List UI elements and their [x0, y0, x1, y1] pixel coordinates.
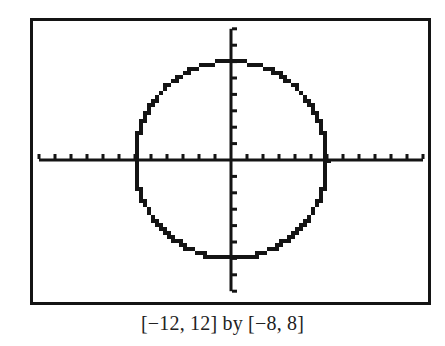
x-tick: [246, 154, 249, 159]
x-tick: [358, 154, 361, 159]
x-tick: [86, 154, 89, 159]
y-tick: [232, 241, 237, 244]
x-tick: [102, 154, 105, 159]
y-tick: [232, 109, 237, 112]
x-tick: [422, 154, 425, 159]
x-tick: [214, 154, 217, 159]
y-tick: [232, 224, 237, 227]
x-tick: [182, 154, 185, 159]
y-tick: [232, 44, 237, 47]
y-tick: [232, 93, 237, 96]
y-tick: [232, 290, 237, 293]
x-tick: [374, 154, 377, 159]
x-tick: [150, 154, 153, 159]
window-caption: [−12, 12] by [−8, 8]: [0, 312, 445, 335]
y-tick: [232, 126, 237, 129]
x-tick: [118, 154, 121, 159]
x-tick: [278, 154, 281, 159]
y-tick: [232, 77, 237, 80]
x-tick: [198, 154, 201, 159]
x-tick: [262, 154, 265, 159]
y-tick: [232, 142, 237, 145]
x-tick: [390, 154, 393, 159]
x-tick: [166, 154, 169, 159]
x-tick: [294, 154, 297, 159]
y-tick: [232, 273, 237, 276]
x-tick: [38, 154, 41, 159]
y-tick: [232, 191, 237, 194]
axes: [38, 27, 425, 292]
y-tick: [232, 27, 237, 30]
plot-area: [33, 21, 428, 302]
x-tick: [54, 154, 57, 159]
y-tick: [232, 208, 237, 211]
y-axis: [230, 29, 233, 291]
x-tick: [70, 154, 73, 159]
calculator-screen: [30, 18, 431, 305]
x-tick: [310, 154, 313, 159]
x-tick: [342, 154, 345, 159]
x-tick: [406, 154, 409, 159]
y-tick: [232, 175, 237, 178]
